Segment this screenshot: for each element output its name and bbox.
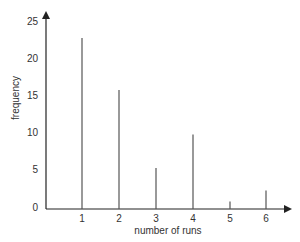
x-tick-label: 1 <box>79 213 85 224</box>
x-tick-label: 6 <box>263 213 269 224</box>
y-tick-label: 10 <box>27 127 39 138</box>
y-tick-label: 20 <box>27 53 39 64</box>
chart-svg: 0510152025 123456 number of runs frequen… <box>0 0 300 242</box>
y-tick-label: 25 <box>27 16 39 27</box>
y-tick-label: 5 <box>32 164 38 175</box>
x-tick-label: 2 <box>116 213 122 224</box>
x-tick-label: 4 <box>190 213 196 224</box>
x-tick-label: 5 <box>227 213 233 224</box>
x-tick-labels: 123456 <box>79 213 269 224</box>
y-axis-label: frequency <box>10 76 21 120</box>
y-tick-label: 15 <box>27 90 39 101</box>
frequency-chart: 0510152025 123456 number of runs frequen… <box>0 0 300 242</box>
x-axis-label: number of runs <box>134 225 201 236</box>
x-tick-label: 3 <box>153 213 159 224</box>
y-tick-labels: 0510152025 <box>27 16 39 213</box>
bars <box>82 38 266 209</box>
y-tick-label: 0 <box>32 202 38 213</box>
